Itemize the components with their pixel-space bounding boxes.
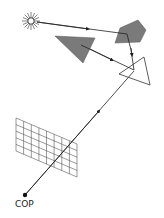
reflected-ray <box>81 45 134 70</box>
light-source-icon <box>22 12 40 30</box>
center-of-projection-dot <box>23 193 27 197</box>
image-plane-grid <box>16 118 77 177</box>
cop-label: COP <box>15 199 34 209</box>
dark-triangle-object <box>55 36 95 63</box>
ray-tracing-diagram <box>0 0 164 218</box>
outline-triangle-object <box>119 57 150 85</box>
pentagon-object <box>115 20 146 43</box>
primary-ray <box>25 71 134 195</box>
